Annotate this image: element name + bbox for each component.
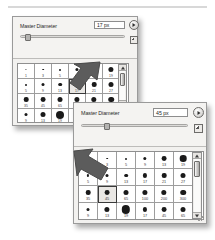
brush-tip-dot (180, 190, 186, 196)
brush-tip-dot (105, 190, 110, 195)
brush-preset-cell[interactable]: 13 (117, 169, 136, 186)
brush-preset-cell[interactable]: 45 (98, 186, 117, 203)
brush-preset-cell[interactable]: 27 (174, 169, 193, 186)
brush-preset-cell[interactable]: 300 (174, 186, 193, 203)
brush-size-label: 45 (35, 105, 51, 108)
brush-preset-cell[interactable]: 17 (136, 169, 155, 186)
brush-tip-dot (24, 97, 29, 102)
brush-preset-cell[interactable]: 5 (117, 152, 136, 169)
master-diameter-slider-back[interactable] (20, 35, 125, 38)
brush-preset-cell[interactable]: 19 (174, 152, 193, 169)
brush-preset-cell[interactable]: 3 (35, 64, 52, 79)
brush-tip-dot (56, 111, 64, 119)
brush-size-label: 9 (136, 164, 154, 168)
preset-menu-button-back[interactable] (130, 36, 138, 44)
brush-tip-dot (25, 113, 28, 116)
brush-preset-cell[interactable]: 21 (155, 169, 174, 186)
scrollbar-thumb-front[interactable] (194, 161, 200, 177)
scrollbar-thumb-back[interactable] (120, 73, 125, 86)
brush-preset-cell[interactable]: 65 (117, 186, 136, 203)
master-diameter-slider-thumb-front[interactable] (104, 123, 110, 130)
brush-preset-cell[interactable]: 9 (18, 109, 35, 123)
brush-size-label: 3 (35, 75, 51, 78)
master-diameter-slider-thumb-back[interactable] (25, 34, 31, 41)
brush-preset-cell[interactable]: 35 (79, 186, 98, 203)
panel-menu-round-button-back[interactable] (129, 20, 139, 30)
screenshot-root: Master Diameter 17 px 135913195913172127… (0, 0, 215, 240)
brush-size-label: 13 (155, 164, 173, 168)
brush-preset-cell[interactable]: 45 (35, 94, 52, 109)
brush-tip-dot (41, 97, 46, 102)
brush-tip-dot (42, 69, 44, 71)
brush-size-label: 19 (103, 75, 119, 78)
brush-size-label: 9 (35, 90, 51, 93)
brush-grid-scrollbar-front[interactable] (192, 152, 202, 219)
brush-tip-dot (181, 173, 186, 178)
brush-tip-dot (162, 207, 167, 212)
brush-tip-dot (86, 190, 91, 195)
brush-tip-dot (124, 190, 129, 195)
brush-size-label: 21 (155, 181, 173, 185)
master-diameter-value-front[interactable]: 45 px (153, 108, 188, 117)
brush-preset-cell[interactable]: 17 (136, 203, 155, 220)
brush-size-label: 13 (35, 120, 51, 123)
pointer-arrow-front (72, 147, 118, 185)
brush-size-label: 17 (136, 215, 154, 219)
brush-grid-scrollbar-back[interactable] (118, 64, 127, 107)
top-divider-rule (8, 6, 207, 8)
brush-size-label: 45 (155, 215, 173, 219)
brush-preset-cell[interactable]: 65 (174, 203, 193, 220)
brush-preset-cell[interactable]: 1 (18, 64, 35, 79)
brush-size-label: 13 (117, 181, 135, 185)
panel-menu-round-button-front[interactable] (193, 107, 204, 118)
brush-tip-dot (25, 84, 27, 86)
brush-size-label: 35 (18, 105, 34, 108)
brush-preset-cell[interactable]: 100 (136, 186, 155, 203)
master-diameter-slider-front[interactable] (81, 124, 188, 127)
master-diameter-value-back[interactable]: 17 px (94, 21, 125, 29)
brush-preset-cell[interactable]: 19 (117, 203, 136, 220)
brush-tip-dot (58, 97, 63, 102)
brush-tip-dot (42, 83, 45, 86)
brush-tip-dot (143, 157, 146, 160)
brush-tip-dot (104, 207, 109, 212)
brush-preset-cell[interactable]: 200 (155, 186, 174, 203)
brush-size-label: 19 (174, 164, 192, 168)
brush-preset-cell[interactable]: 13 (98, 203, 117, 220)
brush-size-label: 35 (79, 198, 97, 202)
brush-size-label: 200 (155, 198, 173, 202)
brush-size-label: 9 (18, 120, 34, 123)
brush-preset-cell[interactable]: 35 (18, 94, 35, 109)
brush-preset-cell[interactable]: 5 (18, 79, 35, 94)
brush-tip-dot (161, 190, 166, 195)
brush-preset-cell[interactable]: 13 (155, 152, 174, 169)
brush-tip-dot (122, 205, 130, 213)
brush-preset-cell[interactable]: 65 (52, 94, 69, 109)
panel-resize-grip[interactable] (197, 214, 204, 221)
brush-size-label: 65 (52, 105, 68, 108)
brush-preset-cell[interactable]: 19 (52, 109, 69, 123)
master-diameter-label-back: Master Diameter (20, 23, 57, 29)
brush-preset-cell[interactable]: 9 (136, 152, 155, 169)
brush-tip-dot (142, 190, 147, 195)
brush-tip-dot (109, 82, 114, 87)
brush-preset-cell[interactable]: 9 (79, 203, 98, 220)
brush-size-label: 5 (18, 90, 34, 93)
brush-size-label: 300 (174, 198, 192, 202)
brush-tip-dot (162, 173, 167, 178)
brush-tip-dot (87, 208, 90, 211)
brush-size-label: 65 (174, 215, 192, 219)
brush-preset-cell[interactable]: 13 (35, 109, 52, 123)
brush-preset-cell[interactable]: 45 (155, 203, 174, 220)
brush-preset-cell[interactable]: 9 (35, 79, 52, 94)
brush-size-label: 27 (103, 90, 119, 93)
brush-size-label: 17 (136, 181, 154, 185)
preset-menu-button-front[interactable] (194, 124, 203, 133)
brush-size-label: 45 (98, 198, 116, 202)
brush-size-label: 100 (136, 198, 154, 202)
brush-size-label: 13 (98, 215, 116, 219)
brush-tip-dot (180, 155, 187, 162)
brush-tip-dot (41, 112, 46, 117)
brush-size-label: 65 (117, 198, 135, 202)
brush-size-label: 19 (52, 120, 68, 123)
